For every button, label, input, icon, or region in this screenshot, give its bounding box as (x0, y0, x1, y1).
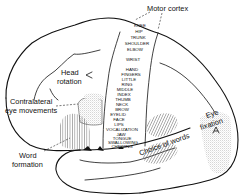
head-rotation-label-2: rotation (57, 77, 82, 86)
contralateral-leader (56, 104, 78, 106)
word-formation-label-2: formation (12, 160, 43, 169)
head-rotation-leader (86, 72, 92, 78)
middle-temporal-sulcus (85, 168, 160, 180)
strip-label: TRUNK (130, 35, 145, 40)
strip-label: KNEE (134, 23, 146, 28)
strip-label: WRIST (126, 57, 140, 62)
motor-cortex-leader-right (158, 13, 162, 30)
strip-label: ELBOW (127, 47, 144, 52)
brain-diagram: Motor cortex Head rotation Contralateral… (0, 0, 247, 195)
word-formation-label-1: Word (19, 151, 37, 160)
strip-label: CHEWING (111, 144, 133, 149)
temporal-lobe-outline (56, 150, 140, 194)
strip-label: SHOULDER (125, 41, 149, 46)
contralateral-label-1: Contralateral (10, 97, 53, 106)
motor-cortex-leader-left (135, 12, 150, 20)
motor-strip-labels: KNEE HIP TRUNK SHOULDER ELBOW WRIST HAND… (106, 23, 149, 149)
motor-cortex-label: Motor cortex (147, 4, 188, 13)
strip-label: HIP (135, 29, 142, 34)
contralateral-label-2: eye movements (5, 106, 57, 115)
head-rotation-label-1: Head (61, 68, 79, 77)
